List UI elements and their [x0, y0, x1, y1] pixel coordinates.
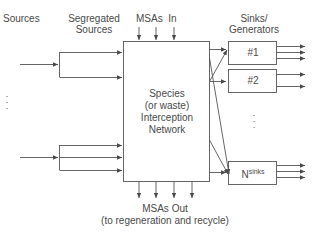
interception-network-label: Species (or waste) Interception Network	[124, 88, 210, 136]
segregated-sources-line2: Sources	[64, 24, 124, 35]
segregated-sources-line1: Segregated	[64, 13, 124, 24]
sources-ellipsis: ···	[4, 93, 10, 111]
segregated-sources-label: Segregated Sources	[64, 13, 124, 35]
sink-n-label: Nsinks	[229, 166, 277, 181]
sources-label: Sources	[3, 13, 40, 24]
sinks-generators-line1: Sinks/	[226, 13, 282, 24]
sinks-generators-label: Sinks/ Generators	[226, 13, 282, 35]
network-line1: Species	[124, 88, 210, 100]
msas-in-label: MSAs In	[136, 13, 177, 24]
msas-out-note: (to regeneration and recycle)	[80, 215, 250, 226]
network-line4: Network	[124, 124, 210, 136]
sinks-generators-line2: Generators	[226, 24, 282, 35]
sink-n-base: N	[241, 169, 248, 180]
sinks-ellipsis: ···	[251, 112, 257, 130]
network-line2: (or waste)	[124, 100, 210, 112]
sink-1-label: #1	[229, 47, 277, 59]
network-line3: Interception	[124, 112, 210, 124]
sink-2-label: #2	[229, 75, 277, 87]
sink-n-superscript: sinks	[249, 168, 265, 175]
msas-out-label: MSAs Out	[100, 203, 230, 214]
